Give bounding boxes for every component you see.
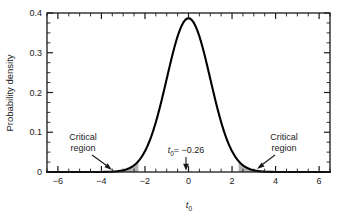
- y-tick-label: 0.1: [29, 127, 42, 137]
- right-critical-region-label-line2: region: [271, 143, 296, 153]
- y-tick-label: 0.3: [29, 48, 42, 58]
- x-tick-label: 6: [317, 176, 322, 186]
- test-statistic-value: = −0.26: [174, 145, 205, 155]
- right-critical-region-label-line1: Critical: [270, 132, 298, 142]
- x-tick-label: −6: [53, 176, 63, 186]
- y-tick-label: 0.4: [29, 8, 42, 18]
- x-tick-label: −4: [96, 176, 106, 186]
- x-axis-title-subscript: 0: [189, 205, 193, 212]
- x-tick-label: −2: [140, 176, 150, 186]
- test-statistic-label: t0= −0.26: [168, 145, 205, 157]
- y-tick-label: 0.2: [29, 88, 42, 98]
- x-tick-label: 0: [186, 176, 191, 186]
- chart-container: −6−4−20246 00.10.20.30.4 Probability den…: [0, 0, 349, 217]
- y-axis-title: Probability density: [4, 54, 15, 131]
- left-critical-region-label-line1: Critical: [69, 132, 97, 142]
- left-critical-region-label-line2: region: [70, 143, 95, 153]
- probability-density-chart: −6−4−20246 00.10.20.30.4 Probability den…: [0, 0, 349, 217]
- x-tick-label: 2: [230, 176, 235, 186]
- x-tick-label: 4: [273, 176, 278, 186]
- y-tick-label: 0: [37, 167, 42, 177]
